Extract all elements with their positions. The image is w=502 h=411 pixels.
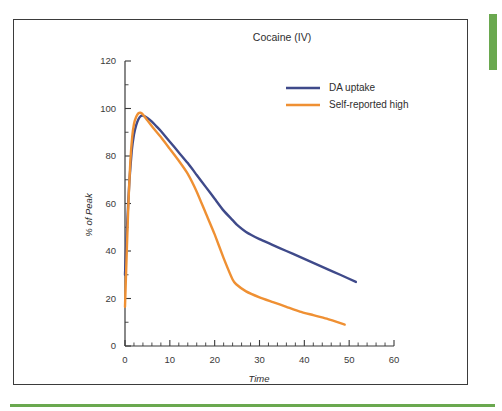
legend-label-self-reported-high: Self-reported high	[329, 99, 409, 110]
x-tick-label: 0	[122, 354, 127, 365]
chart-title: Cocaine (IV)	[253, 31, 311, 43]
x-tick-label: 30	[254, 354, 265, 365]
x-tick-label: 50	[344, 354, 355, 365]
x-tick-label: 10	[165, 354, 176, 365]
y-axis: 020406080100120 % of Peak	[83, 55, 131, 351]
x-tick-label: 40	[299, 354, 310, 365]
series-line-da-uptake	[125, 116, 356, 282]
y-tick-label: 20	[105, 293, 116, 304]
chart-plot: Cocaine (IV) 020406080100120 % of Peak 0…	[0, 0, 502, 411]
x-tick-label: 60	[389, 354, 400, 365]
x-tick-label: 20	[209, 354, 220, 365]
legend-label-da-uptake: DA uptake	[329, 82, 376, 93]
figure-root: Cocaine (IV) 020406080100120 % of Peak 0…	[0, 0, 502, 411]
y-tick-label: 0	[111, 340, 116, 351]
y-axis-label: % of Peak	[83, 192, 94, 237]
y-tick-label: 100	[100, 103, 116, 114]
x-axis-tick-labels: 0102030405060	[122, 354, 399, 365]
x-axis: 0102030405060 Time	[122, 340, 399, 384]
x-axis-ticks	[125, 340, 394, 346]
y-axis-tick-labels: 020406080100120	[100, 55, 116, 351]
chart-legend: DA uptake Self-reported high	[286, 82, 409, 110]
y-tick-label: 60	[105, 198, 116, 209]
y-tick-label: 40	[105, 245, 116, 256]
y-tick-label: 80	[105, 150, 116, 161]
series-line-self-reported-high	[125, 113, 345, 325]
y-tick-label: 120	[100, 55, 116, 66]
x-axis-label: Time	[248, 373, 269, 384]
chart-series-group	[125, 113, 356, 325]
